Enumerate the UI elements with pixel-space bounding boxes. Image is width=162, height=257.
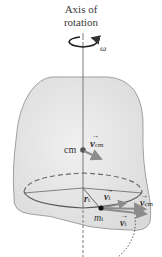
v-i-vector	[101, 208, 145, 209]
v-i-label: → vi	[120, 218, 126, 228]
rigid-body-rotation-diagram: Axis of rotation ω cm → vcm ri → vi′ → v…	[0, 0, 162, 257]
axis-title-line1: Axis of	[0, 4, 162, 15]
v-i-prime-label: → vi′	[104, 192, 112, 202]
vector-arrow-icon: →	[120, 212, 128, 220]
v-cm-label-center: → vcm	[90, 138, 103, 149]
rigid-body-shape	[13, 77, 150, 230]
cm-label: cm	[64, 145, 76, 155]
vector-arrow-icon: →	[91, 132, 99, 140]
axis-title-line2: rotation	[0, 17, 162, 28]
r-i-label: ri	[84, 194, 90, 204]
m-i-label: mi	[94, 213, 103, 223]
v-cm-label-particle: → vcm	[140, 198, 153, 208]
omega-label: ω	[100, 44, 106, 53]
vector-arrow-icon: →	[140, 192, 148, 200]
diagram-canvas	[0, 0, 162, 257]
particle-mi-point	[98, 205, 103, 210]
